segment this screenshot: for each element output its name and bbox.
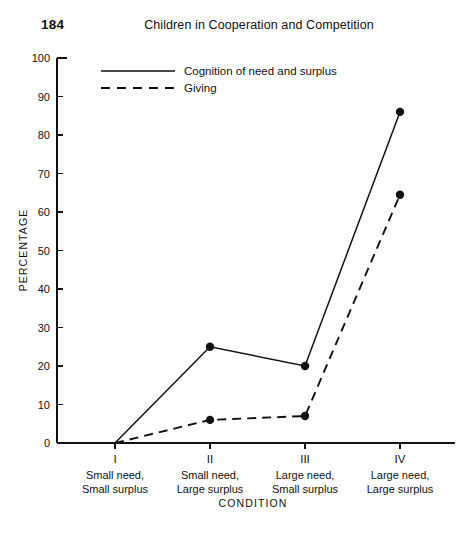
y-tick-label: 0 (44, 437, 50, 449)
x-category-sublabel: Small need, (181, 469, 239, 481)
x-category-roman: II (207, 453, 213, 465)
data-point-marker (301, 412, 309, 420)
x-category-sublabel: Small need, (86, 469, 144, 481)
x-category-sublabel: Large surplus (177, 483, 244, 495)
data-point-marker (206, 343, 214, 351)
y-tick-label: 30 (38, 322, 50, 334)
y-tick-label: 80 (38, 129, 50, 141)
x-category-sublabel: Small surplus (82, 483, 149, 495)
x-category-roman: IV (395, 453, 406, 465)
y-tick-label: 70 (38, 168, 50, 180)
y-tick-label: 100 (32, 52, 50, 64)
y-tick-label: 50 (38, 245, 50, 257)
line-chart-figure: 0102030405060708090100 PERCENTAGE ISmall… (0, 0, 466, 535)
x-category-roman: I (113, 453, 116, 465)
chart-svg: 0102030405060708090100 PERCENTAGE ISmall… (0, 0, 466, 535)
x-axis-ticks (115, 443, 400, 449)
y-tick-label: 40 (38, 283, 50, 295)
y-tick-label: 90 (38, 91, 50, 103)
x-category-sublabel: Large need, (276, 469, 335, 481)
data-point-marker (396, 190, 404, 198)
series-line-2 (115, 195, 400, 443)
y-tick-label: 10 (38, 399, 50, 411)
y-axis-ticks: 0102030405060708090100 (32, 52, 63, 449)
series-line-1 (115, 112, 400, 443)
chart-legend: Cognition of need and surplusGiving (101, 65, 337, 94)
legend-label-1: Cognition of need and surplus (184, 65, 337, 77)
x-axis-category-labels: ISmall need,Small surplusIISmall need,La… (82, 453, 434, 495)
x-category-roman: III (300, 453, 310, 465)
data-point-marker (396, 108, 404, 116)
series-plot-area (115, 108, 404, 443)
chart-axes (57, 58, 455, 443)
data-point-marker (301, 362, 309, 370)
y-axis-title: PERCENTAGE (17, 209, 29, 292)
x-category-sublabel: Large surplus (367, 483, 434, 495)
y-tick-label: 20 (38, 360, 50, 372)
legend-label-2: Giving (184, 82, 217, 94)
y-tick-label: 60 (38, 206, 50, 218)
x-category-sublabel: Large need, (371, 469, 430, 481)
x-axis-title: CONDITION (219, 497, 288, 509)
x-category-sublabel: Small surplus (272, 483, 339, 495)
data-point-marker (206, 416, 214, 424)
